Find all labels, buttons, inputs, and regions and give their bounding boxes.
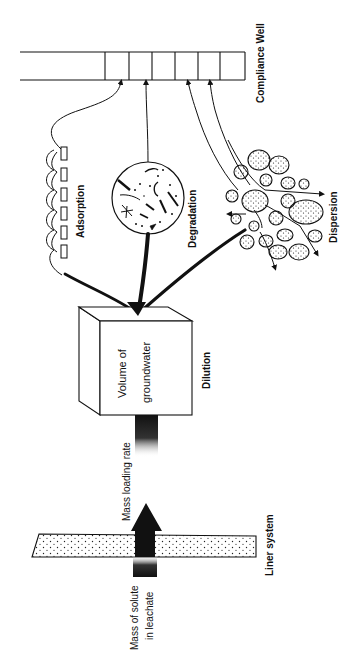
leachate-label-line1: Mass of solute	[129, 586, 140, 650]
groundwater-box	[79, 307, 192, 415]
liner-system-label: Liner system	[264, 514, 275, 576]
mass-loading-rate-label: Mass loading rate	[121, 442, 132, 521]
adsorption-label: Adsorption	[75, 185, 86, 238]
compliance-well	[20, 52, 245, 80]
dispersion-label: Dispersion	[328, 191, 339, 243]
groundwater-label-line2: groundwater	[140, 342, 152, 403]
adsorption-surface	[47, 147, 68, 275]
degradation-label: Degradation	[187, 190, 198, 248]
dispersion-gravel	[226, 150, 323, 260]
groundwater-label-line1: Volume of	[116, 349, 128, 398]
leachate-stipple	[133, 555, 157, 577]
leachate-label-line2: in leachate	[144, 592, 155, 640]
diagram-canvas	[0, 0, 349, 662]
degradation-circle	[112, 162, 184, 234]
compliance-well-label: Compliance Well	[255, 23, 266, 103]
mass-loading-bar	[135, 415, 158, 457]
flow-to-well-lines	[51, 82, 250, 190]
groundwater-streams	[65, 230, 245, 314]
dilution-label: Dilution	[201, 352, 212, 389]
